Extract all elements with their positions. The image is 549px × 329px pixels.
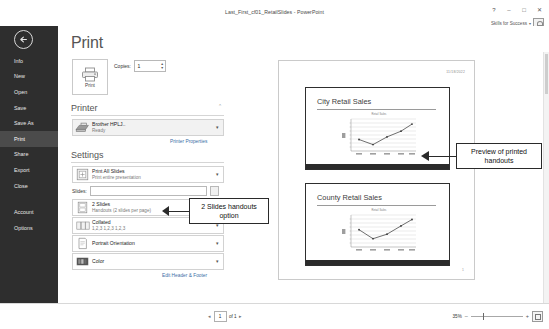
sidebar-item-print[interactable]: Print (0, 131, 58, 147)
sidebar-item-new[interactable]: New (0, 69, 58, 85)
page-title: Print (71, 34, 103, 52)
window-controls: ? – □ ✕ (490, 7, 543, 14)
close-icon[interactable]: ✕ (535, 7, 543, 14)
sidebar-item-label: Open (14, 89, 27, 95)
sidebar-item-export[interactable]: Export (0, 162, 58, 178)
nav-spacer (0, 193, 58, 204)
print-button-label: Print (85, 83, 95, 88)
handout-slide-2: County Retail Sales Retail Sales (305, 183, 450, 266)
orientation-text: Portrait Orientation (91, 240, 216, 246)
help-icon[interactable]: ? (490, 7, 498, 14)
handout-sheet: 11/18/2022 1 City Retail Sales Retail Sa… (278, 60, 475, 280)
chevron-down-icon[interactable]: ▾ (216, 125, 223, 130)
sidebar-item-options[interactable]: Options (0, 220, 58, 236)
printer-section-divider (71, 115, 224, 116)
backstage-nav-rail: Info New Open Save Save As Print (0, 26, 58, 304)
sidebar-item-label: Close (14, 183, 28, 189)
printer-icon (81, 67, 99, 82)
sidebar-item-label: Export (14, 167, 30, 173)
sidebar-item-save[interactable]: Save (0, 100, 58, 116)
back-arrow-icon (18, 34, 29, 45)
printer-properties-link[interactable]: Printer Properties (170, 139, 207, 144)
slide-accent-bar (306, 164, 449, 170)
printer-status: Ready (92, 128, 216, 134)
sidebar-item-label: Print (14, 136, 25, 142)
previous-page-icon[interactable]: ◂ (208, 313, 211, 319)
zoom-in-icon[interactable]: + (526, 314, 529, 319)
zoom-controls: 35% – + (453, 311, 543, 322)
printer-select[interactable]: Brother HPLJ.. Ready ▾ (72, 119, 224, 136)
chart-svg (336, 113, 422, 159)
copies-label: Copies: (114, 63, 131, 69)
option-subtitle: Print entire presentation (92, 175, 216, 181)
printer-section-title: Printer (71, 103, 98, 113)
handouts-callout-leader-line (168, 211, 189, 212)
sidebar-item-info[interactable]: Info (0, 53, 58, 69)
sidebar-item-share[interactable]: Share (0, 147, 58, 163)
sidebar-item-label: Share (14, 151, 28, 157)
zoom-slider-thumb[interactable] (483, 313, 485, 320)
chevron-down-icon[interactable]: ▾ (216, 259, 223, 264)
window-title: Last_First_cf01_RetailSlides - PowerPoin… (0, 9, 549, 15)
slide-accent-bar (306, 260, 449, 266)
color-icon (74, 254, 91, 269)
handouts-callout-arrow (162, 206, 169, 216)
backstage-view: Info New Open Save Save As Print (0, 26, 549, 304)
sheet-page-number: 1 (462, 268, 464, 272)
scrollbar-thumb[interactable] (545, 54, 549, 94)
stepper-down-icon[interactable]: ▼ (161, 66, 164, 70)
printer-info: Brother HPLJ.. Ready (91, 121, 216, 133)
print-button[interactable]: Print (72, 59, 108, 95)
page-number-input[interactable]: 1 (214, 311, 227, 322)
zoom-slider[interactable] (471, 316, 523, 317)
slides-input[interactable] (90, 186, 207, 196)
handout-layout-icon (74, 200, 91, 215)
slide-2-chart: Retail Sales (336, 209, 422, 255)
stepper-arrows[interactable]: ▲ ▼ (161, 62, 164, 71)
print-range-text: Print All Slides Print entire presentati… (91, 168, 216, 180)
preview-vertical-scrollbar[interactable] (543, 52, 549, 329)
copies-control: Copies: 1 ▲ ▼ (114, 60, 166, 72)
collapse-icon[interactable]: ⌃ (218, 103, 222, 109)
printer-device-icon (74, 120, 91, 135)
next-page-icon[interactable]: ▸ (239, 313, 242, 319)
preview-callout-leader-line (429, 156, 456, 157)
zoom-level-label: 35% (453, 314, 462, 319)
preview-callout-arrow (421, 151, 429, 161)
copies-value: 1 (135, 63, 140, 69)
sidebar-item-close[interactable]: Close (0, 178, 58, 194)
sheet-date: 11/18/2022 (446, 70, 465, 74)
page-navigation: ◂ 1 of 1 ▸ (208, 311, 242, 322)
slide-title: City Retail Sales (317, 97, 371, 106)
option-title: Color (92, 258, 216, 264)
sidebar-item-label: Info (14, 58, 23, 64)
slide-title: County Retail Sales (317, 193, 382, 202)
slide-1-chart: Retail Sales (336, 113, 422, 159)
sidebar-item-account[interactable]: Account (0, 204, 58, 220)
sidebar-item-label: Account (14, 209, 33, 215)
chevron-down-icon[interactable]: ▾ (216, 172, 223, 177)
sidebar-item-label: Save (14, 105, 26, 111)
sidebar-item-save-as[interactable]: Save As (0, 115, 58, 131)
print-range-option[interactable]: Print All Slides Print entire presentati… (72, 166, 224, 183)
edit-header-footer-link[interactable]: Edit Header & Footer (162, 273, 207, 278)
slides-expand-button[interactable] (210, 186, 219, 196)
color-option[interactable]: Color ▾ (72, 253, 224, 270)
chart-title: Retail Sales (336, 209, 422, 212)
sidebar-item-open[interactable]: Open (0, 84, 58, 100)
stepper-up-icon[interactable]: ▲ (161, 62, 164, 66)
restore-icon[interactable]: □ (520, 7, 528, 14)
option-subtitle: 1,2,3 1,2,3 1,2,3 (92, 226, 216, 232)
portrait-icon (74, 236, 91, 251)
powerpoint-print-backstage-window: Last_First_cf01_RetailSlides - PowerPoin… (0, 0, 549, 329)
color-text: Color (91, 258, 216, 264)
orientation-option[interactable]: Portrait Orientation ▾ (72, 235, 224, 252)
chevron-down-icon[interactable]: ▾ (216, 241, 223, 246)
minimize-icon[interactable]: – (505, 7, 513, 14)
chart-svg (336, 209, 422, 255)
copies-stepper[interactable]: 1 ▲ ▼ (134, 60, 166, 72)
page-count-label: of 1 (229, 314, 237, 319)
fit-to-window-icon[interactable] (532, 311, 543, 322)
zoom-out-icon[interactable]: – (465, 314, 468, 319)
back-button[interactable] (14, 30, 33, 49)
